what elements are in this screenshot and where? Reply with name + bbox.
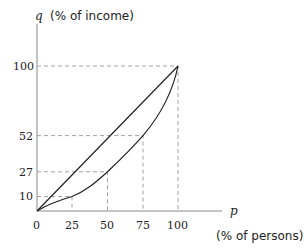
x-tick-100: 100: [167, 219, 188, 232]
y-tick-100: 100: [13, 60, 34, 73]
x-axis-unit: (% of persons): [216, 229, 303, 243]
x-axis-symbol: p: [230, 204, 238, 218]
x-tick-25: 25: [65, 219, 79, 232]
y-tick-52: 52: [19, 130, 33, 143]
y-axis-unit: (% of income): [50, 9, 134, 23]
x-tick-75: 75: [136, 219, 150, 232]
x-tick-0: 0: [33, 219, 40, 232]
y-tick-10: 10: [19, 190, 33, 203]
y-axis-symbol: q: [35, 9, 43, 23]
lorenz-chart: q (% of income) p (% of persons) 0 25 50…: [0, 0, 304, 251]
y-tick-27: 27: [19, 166, 33, 179]
x-tick-50: 50: [100, 219, 114, 232]
